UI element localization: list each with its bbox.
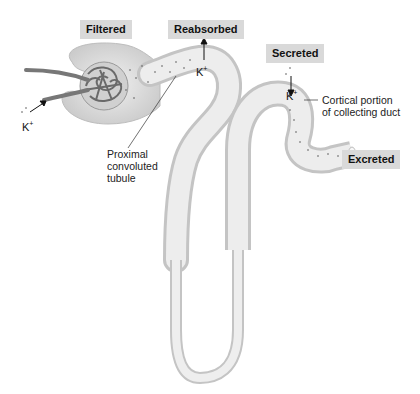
reabsorbed-label: Reabsorbed — [168, 20, 244, 39]
nephron-diagram: Filtered Reabsorbed Secreted Excreted K+… — [0, 0, 420, 394]
excreted-label: Excreted — [342, 150, 400, 169]
ion-k-plus-filtered: K+ — [22, 118, 33, 133]
filtered-label: Filtered — [80, 20, 132, 39]
nephron-illustration — [0, 0, 420, 394]
ion-charge: + — [29, 120, 33, 127]
ion-k-plus-secreted: K+ — [286, 87, 297, 102]
proximal-label-line: Proximal — [107, 148, 158, 160]
ion-k-plus-reabsorbed: K+ — [196, 63, 207, 78]
cortical-label-line: of collecting duct — [322, 106, 400, 118]
cortical-duct-label: Cortical portion of collecting duct — [322, 94, 400, 118]
ion-charge: + — [293, 89, 297, 96]
ion-charge: + — [203, 65, 207, 72]
proximal-label-line: tubule — [107, 172, 158, 184]
proximal-label-line: convoluted — [107, 160, 158, 172]
cortical-label-line: Cortical portion — [322, 94, 400, 106]
secreted-label: Secreted — [266, 44, 324, 63]
proximal-tubule-label: Proximal convoluted tubule — [107, 148, 158, 184]
